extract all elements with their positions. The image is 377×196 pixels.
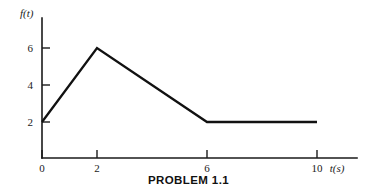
figure-container: 6 4 2 0 2 6 10 f(t) t(s) PROBLEM 1.1 xyxy=(0,0,377,196)
x-tick-label-0: 0 xyxy=(39,162,45,174)
y-axis-title: f(t) xyxy=(20,7,34,20)
x-tick-label-2: 2 xyxy=(94,162,100,174)
y-tick-label-6: 6 xyxy=(28,42,34,54)
y-tick-label-4: 4 xyxy=(28,79,34,91)
y-tick-label-2: 2 xyxy=(28,116,34,128)
figure-caption: PROBLEM 1.1 xyxy=(0,174,377,186)
plot-area: 6 4 2 0 2 6 10 f(t) t(s) xyxy=(0,0,377,196)
data-series-line xyxy=(42,48,317,122)
x-tick-label-10: 10 xyxy=(312,162,324,174)
x-tick-label-6: 6 xyxy=(204,162,210,174)
